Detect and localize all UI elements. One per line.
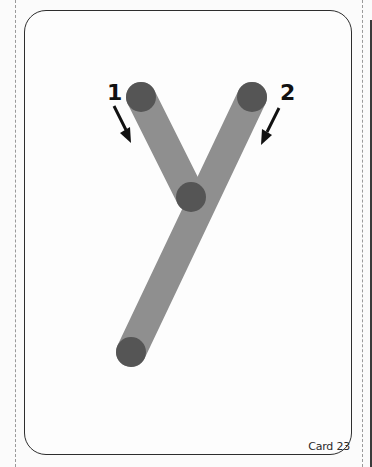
stroke-1-start-point [126,82,156,112]
card-label: Card 23 [308,440,350,453]
arrow-down-right-icon [114,106,131,143]
stroke-1-path [141,97,191,197]
stroke-2-end-point [116,337,146,367]
letter-y-tracing-guide [0,0,372,467]
arrow-down-left-icon [261,108,279,145]
stroke-2-start-point [237,82,267,112]
stroke-2-number: 2 [280,80,295,105]
stroke-1-end-point [176,182,206,212]
stroke-1-number: 1 [107,80,122,105]
